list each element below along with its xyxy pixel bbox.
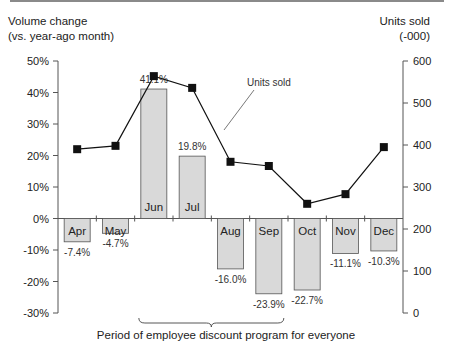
category-label: Jul [185,201,200,213]
category-label: Apr [68,225,86,237]
left-axis-tick-label: 20% [27,150,49,162]
category-label: Nov [335,225,356,237]
left-axis-tick-label: 40% [27,87,49,99]
bar-value-label: -4.7% [102,238,128,249]
left-axis-tick-label: -20% [23,276,49,288]
units-sold-marker [265,162,273,170]
combo-chart: 50%40%30%20%10%0%-10%-20%-30%60050040030… [0,0,452,347]
right-axis-tick-label: 500 [413,97,431,109]
left-axis-tick-label: 0% [33,213,49,225]
right-axis-tick-label: 600 [413,55,431,67]
units-sold-marker [73,145,81,153]
left-axis-tick-label: -30% [23,307,49,319]
category-label: Jun [145,201,164,213]
line-label-leader [224,90,254,130]
brace-label: Period of employee discount program for … [0,329,452,341]
right-axis-tick-label: 400 [413,139,431,151]
bar-value-label: -10.3% [368,256,400,267]
right-axis-tick-label: 100 [413,265,431,277]
category-label: Dec [374,225,395,237]
units-sold-marker [150,72,158,80]
bar-value-label: -7.4% [64,247,90,258]
category-label: May [105,225,127,237]
units-sold-marker [380,143,388,151]
category-label: Oct [298,225,317,237]
bar-value-label: 19.8% [178,141,206,152]
units-sold-marker [112,142,120,150]
units-sold-marker [342,190,350,198]
bar-value-label: -16.0% [215,274,247,285]
right-axis-tick-label: 300 [413,181,431,193]
discount-period-brace [139,318,284,327]
left-axis-tick-label: 50% [27,55,49,67]
category-label: Sep [259,225,279,237]
line-series-label: Units sold [247,77,291,88]
right-axis-tick-label: 200 [413,223,431,235]
units-sold-line [77,76,384,204]
units-sold-marker [303,200,311,208]
left-axis-tick-label: -10% [23,244,49,256]
category-label: Aug [220,225,240,237]
bar-jun [141,89,167,218]
bar-value-label: -11.1% [330,258,361,269]
bar-value-label: -22.7% [291,295,323,306]
units-sold-marker [188,84,196,92]
left-axis-tick-label: 10% [27,181,49,193]
bar-value-label: -23.9% [253,299,285,310]
right-axis-tick-label: 0 [413,307,419,319]
units-sold-marker [227,158,235,166]
left-axis-tick-label: 30% [27,118,49,130]
